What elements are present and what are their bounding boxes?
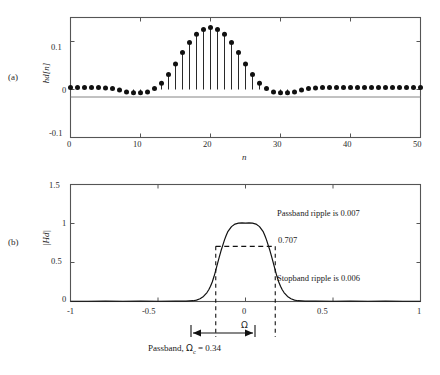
- panel-a-plot: [0, 0, 440, 175]
- panel-b-plot: [0, 175, 440, 375]
- stem-marker: [173, 62, 178, 67]
- stem-marker: [124, 89, 129, 94]
- stem-marker: [355, 85, 360, 90]
- panel-a-stems: [134, 28, 288, 93]
- panel-b-frame: [71, 185, 421, 302]
- stem-marker: [390, 85, 395, 90]
- passband-arrow: [191, 325, 255, 337]
- stem-marker: [166, 72, 171, 77]
- stem-marker: [89, 85, 94, 90]
- panel-b-ticks: [71, 185, 421, 302]
- stem-marker: [187, 40, 192, 45]
- stem-marker: [222, 32, 227, 37]
- passband-arrow-head-left: [193, 330, 201, 337]
- stem-marker: [313, 86, 318, 91]
- stem-marker: [75, 85, 80, 90]
- stem-marker: [376, 85, 381, 90]
- stem-marker: [152, 86, 157, 91]
- stem-marker: [362, 85, 367, 90]
- stem-marker: [271, 89, 276, 94]
- stem-marker: [383, 85, 388, 90]
- stem-marker: [292, 89, 297, 94]
- panel-b-guide-lines: [216, 246, 276, 337]
- panel-b: (b) |Hd| 1.5 1 0.5 0 -1 -0.5 0 0.5 1 Ω P…: [0, 175, 440, 375]
- stem-marker: [327, 85, 332, 90]
- stem-marker: [250, 72, 255, 77]
- stem-marker: [159, 81, 164, 86]
- figure-container: (a) hd[n] 0.1 0 -0.1 0 10 20 30 40 50 n …: [0, 0, 440, 375]
- stem-marker: [215, 27, 220, 32]
- stem-marker: [208, 25, 213, 30]
- stem-marker: [278, 90, 283, 95]
- stem-marker: [411, 85, 416, 90]
- stem-marker: [180, 50, 185, 55]
- stem-marker: [257, 81, 262, 86]
- stem-marker: [334, 85, 339, 90]
- stem-marker: [285, 90, 290, 95]
- magnitude-response-curve: [71, 223, 421, 301]
- stem-marker: [348, 85, 353, 90]
- stem-marker: [264, 86, 269, 91]
- stem-marker: [145, 89, 150, 94]
- stem-marker: [68, 85, 73, 90]
- stem-marker: [369, 85, 374, 90]
- stem-marker: [320, 85, 325, 90]
- stem-marker: [418, 85, 423, 90]
- stem-marker: [299, 87, 304, 92]
- panel-a: (a) hd[n] 0.1 0 -0.1 0 10 20 30 40 50 n: [0, 0, 440, 175]
- stem-marker: [103, 86, 108, 91]
- stem-marker: [397, 85, 402, 90]
- stem-marker: [404, 85, 409, 90]
- stem-marker: [138, 90, 143, 95]
- stem-marker: [236, 50, 241, 55]
- stem-marker: [117, 87, 122, 92]
- stem-marker: [201, 27, 206, 32]
- passband-arrow-head-right: [245, 330, 253, 337]
- stem-marker: [131, 90, 136, 95]
- stem-marker: [96, 85, 101, 90]
- stem-marker: [82, 85, 87, 90]
- stem-marker: [194, 32, 199, 37]
- stem-marker: [229, 40, 234, 45]
- stem-marker: [341, 85, 346, 90]
- stem-marker: [110, 86, 115, 91]
- stem-marker: [243, 62, 248, 67]
- stem-marker: [306, 86, 311, 91]
